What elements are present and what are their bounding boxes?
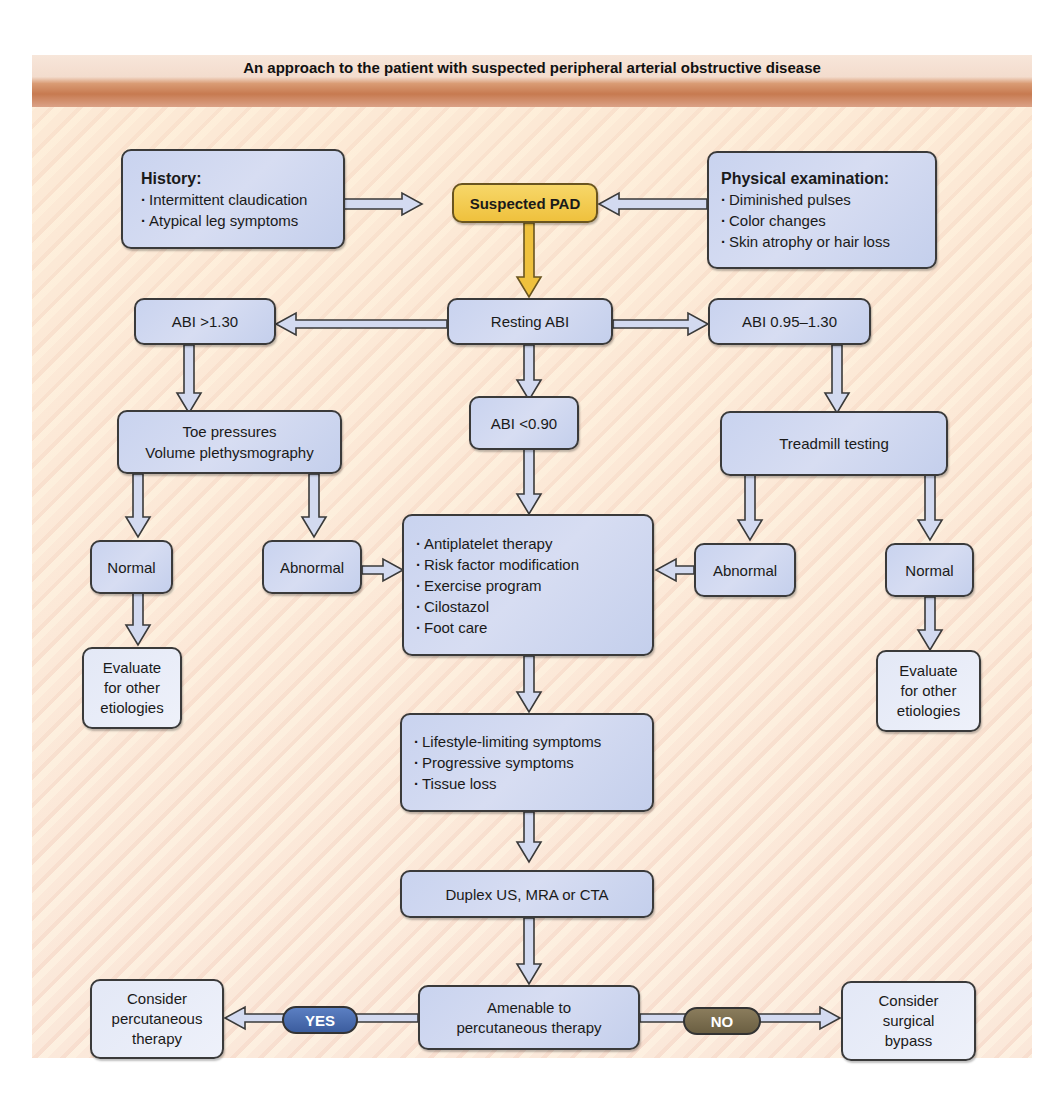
symptoms-item: Lifestyle-limiting symptoms bbox=[414, 731, 652, 752]
surgical-line: bypass bbox=[885, 1031, 933, 1051]
physical-exam-item: Color changes bbox=[721, 210, 935, 231]
amenable-line: percutaneous therapy bbox=[456, 1018, 601, 1038]
right-abnormal-label: Abnormal bbox=[713, 560, 777, 581]
therapy-item: Cilostazol bbox=[416, 596, 652, 617]
left-normal-box: Normal bbox=[90, 540, 173, 594]
left-abnormal-label: Abnormal bbox=[280, 557, 344, 578]
arrow-treadmill-to-normal bbox=[918, 475, 942, 540]
arrow-normal-left-to-evaluate bbox=[126, 593, 150, 645]
amenable-box: Amenable to percutaneous therapy bbox=[418, 985, 640, 1050]
left-evaluate-line: Evaluate bbox=[103, 658, 161, 678]
therapy-box: Antiplatelet therapy Risk factor modific… bbox=[402, 514, 654, 656]
abi-low-box: ABI <0.90 bbox=[469, 396, 579, 450]
arrow-history-to-pad bbox=[344, 193, 422, 215]
left-abnormal-box: Abnormal bbox=[262, 540, 362, 594]
physical-exam-heading: Physical examination: bbox=[721, 168, 935, 189]
imaging-label: Duplex US, MRA or CTA bbox=[445, 884, 608, 905]
resting-abi-label: Resting ABI bbox=[491, 311, 569, 332]
right-normal-box: Normal bbox=[885, 543, 974, 597]
arrow-imaging-to-amenable bbox=[517, 918, 541, 984]
arrow-symptoms-to-imaging bbox=[517, 812, 541, 862]
imaging-box: Duplex US, MRA or CTA bbox=[400, 870, 654, 918]
left-evaluate-line: for other bbox=[104, 678, 160, 698]
resting-abi-box: Resting ABI bbox=[447, 298, 613, 345]
therapy-item: Exercise program bbox=[416, 575, 652, 596]
amenable-line: Amenable to bbox=[487, 998, 571, 1018]
arrow-high-to-toe bbox=[177, 345, 201, 413]
history-heading: History: bbox=[141, 168, 343, 189]
physical-exam-item: Skin atrophy or hair loss bbox=[721, 231, 935, 252]
suspected-pad-label: Suspected PAD bbox=[470, 193, 581, 214]
right-abnormal-box: Abnormal bbox=[694, 543, 796, 597]
therapy-item: Risk factor modification bbox=[416, 554, 652, 575]
right-evaluate-line: etiologies bbox=[897, 701, 960, 721]
abi-range-box: ABI 0.95–1.30 bbox=[708, 298, 871, 345]
arrow-low-to-therapy bbox=[517, 448, 541, 514]
arrow-toe-to-normal bbox=[126, 474, 150, 537]
right-evaluate-line: for other bbox=[901, 681, 957, 701]
arrow-resting-to-range bbox=[613, 313, 708, 335]
treadmill-box: Treadmill testing bbox=[720, 411, 948, 476]
symptoms-item: Tissue loss bbox=[414, 773, 652, 794]
arrow-pad-to-resting bbox=[517, 223, 541, 297]
abi-low-label: ABI <0.90 bbox=[491, 413, 557, 434]
right-evaluate-box: Evaluate for other etiologies bbox=[876, 650, 981, 732]
treadmill-label: Treadmill testing bbox=[779, 433, 888, 454]
history-item: Intermittent claudication bbox=[141, 189, 343, 210]
arrow-toe-to-abnormal bbox=[302, 474, 326, 537]
therapy-item: Foot care bbox=[416, 617, 652, 638]
right-normal-label: Normal bbox=[905, 560, 953, 581]
surgical-line: surgical bbox=[883, 1011, 935, 1031]
physical-exam-item: Diminished pulses bbox=[721, 189, 935, 210]
percutaneous-line: therapy bbox=[132, 1029, 182, 1049]
physical-exam-box: Physical examination: Diminished pulses … bbox=[707, 151, 937, 269]
history-box: History: Intermittent claudication Atypi… bbox=[121, 149, 345, 249]
yes-label: YES bbox=[282, 1006, 358, 1034]
abi-high-label: ABI >1.30 bbox=[172, 311, 238, 332]
surgical-line: Consider bbox=[878, 991, 938, 1011]
left-evaluate-line: etiologies bbox=[100, 698, 163, 718]
right-evaluate-line: Evaluate bbox=[899, 661, 957, 681]
left-evaluate-box: Evaluate for other etiologies bbox=[82, 647, 182, 729]
arrow-normal-right-to-evaluate bbox=[918, 597, 942, 650]
no-label: NO bbox=[683, 1007, 761, 1035]
surgical-box: Consider surgical bypass bbox=[841, 981, 976, 1061]
suspected-pad-box: Suspected PAD bbox=[452, 183, 598, 223]
abi-range-label: ABI 0.95–1.30 bbox=[742, 311, 837, 332]
arrow-resting-to-low bbox=[517, 345, 541, 400]
arrow-therapy-to-symptoms bbox=[517, 656, 541, 712]
therapy-item: Antiplatelet therapy bbox=[416, 533, 652, 554]
percutaneous-line: Consider bbox=[127, 989, 187, 1009]
percutaneous-line: percutaneous bbox=[112, 1009, 203, 1029]
history-item: Atypical leg symptoms bbox=[141, 210, 343, 231]
arrow-resting-to-high bbox=[276, 313, 447, 335]
abi-high-box: ABI >1.30 bbox=[134, 298, 276, 345]
percutaneous-box: Consider percutaneous therapy bbox=[90, 979, 224, 1059]
toe-pressures-label: Toe pressures bbox=[182, 421, 276, 442]
toe-pressures-box: Toe pressures Volume plethysmography bbox=[117, 410, 342, 474]
arrow-exam-to-pad bbox=[599, 193, 707, 215]
arrow-abnormal-right-to-therapy bbox=[656, 559, 694, 581]
left-normal-label: Normal bbox=[107, 557, 155, 578]
arrow-range-to-treadmill bbox=[825, 345, 849, 413]
symptoms-item: Progressive symptoms bbox=[414, 752, 652, 773]
arrow-treadmill-to-abnormal bbox=[738, 475, 762, 540]
symptoms-box: Lifestyle-limiting symptoms Progressive … bbox=[400, 713, 654, 812]
volume-plethysmography-label: Volume plethysmography bbox=[145, 442, 313, 463]
arrow-abnormal-left-to-therapy bbox=[362, 559, 403, 581]
